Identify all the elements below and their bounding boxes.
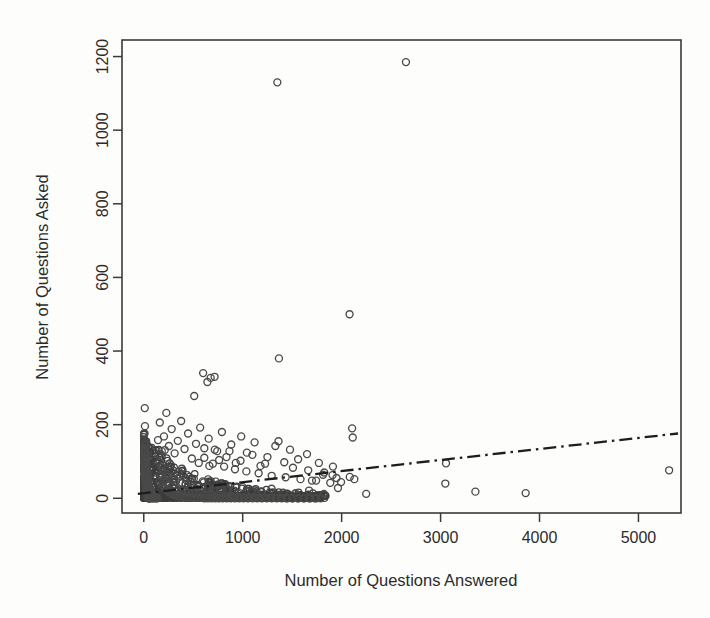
data-point <box>289 464 296 471</box>
data-point <box>205 435 212 442</box>
data-point <box>171 450 178 457</box>
x-tick-label-5000: 5000 <box>621 529 657 546</box>
data-point <box>168 426 175 433</box>
data-point <box>218 429 225 436</box>
data-point <box>349 434 356 441</box>
data-point <box>402 59 409 66</box>
x-tick-label-1000: 1000 <box>225 529 261 546</box>
data-point <box>188 455 195 462</box>
y-axis-title: Number of Questions Asked <box>33 174 51 379</box>
data-point <box>201 454 208 461</box>
data-point <box>251 439 258 446</box>
x-tick-label-2000: 2000 <box>324 529 360 546</box>
x-tick-label-4000: 4000 <box>522 529 558 546</box>
data-point <box>281 459 288 466</box>
data-point <box>223 454 230 461</box>
data-point <box>315 459 322 466</box>
data-point <box>156 419 163 426</box>
data-point <box>243 468 250 475</box>
data-point <box>274 79 281 86</box>
data-point <box>141 423 148 430</box>
data-point <box>155 437 162 444</box>
y-axis-tick-labels: 020040060080010001200 <box>94 39 111 503</box>
plot-canvas: 020040060080010001200 010002000300040005… <box>0 0 710 618</box>
y-tick-label-1000: 1000 <box>94 112 111 148</box>
data-point <box>185 430 192 437</box>
data-point <box>275 355 282 362</box>
data-point <box>191 392 198 399</box>
data-point <box>666 467 673 474</box>
data-point <box>238 433 245 440</box>
y-tick-label-600: 600 <box>94 264 111 291</box>
data-point <box>363 490 370 497</box>
data-point <box>442 480 449 487</box>
data-point <box>228 441 235 448</box>
data-point <box>295 456 302 463</box>
y-axis-ticks <box>113 57 122 499</box>
data-point-group <box>141 59 673 502</box>
y-tick-label-400: 400 <box>94 338 111 365</box>
data-point <box>201 445 208 452</box>
data-point <box>200 370 207 377</box>
data-point <box>197 424 204 431</box>
data-point <box>346 311 353 318</box>
x-axis-title: Number of Questions Answered <box>285 571 518 589</box>
data-point <box>178 417 185 424</box>
y-tick-label-800: 800 <box>94 190 111 217</box>
data-point <box>305 467 312 474</box>
data-point <box>443 460 450 467</box>
data-point <box>349 425 356 432</box>
data-point <box>174 437 181 444</box>
scatter-plot-figure: 020040060080010001200 010002000300040005… <box>0 0 710 618</box>
data-point <box>141 405 148 412</box>
y-tick-label-1200: 1200 <box>94 39 111 75</box>
data-point <box>165 443 172 450</box>
x-tick-label-0: 0 <box>139 529 148 546</box>
data-point <box>287 446 294 453</box>
x-tick-label-3000: 3000 <box>423 529 459 546</box>
data-point <box>193 440 200 447</box>
data-point <box>264 454 271 461</box>
data-point <box>181 445 188 452</box>
y-tick-label-0: 0 <box>94 494 111 503</box>
data-point <box>214 448 221 455</box>
data-point <box>334 484 341 491</box>
data-point <box>304 451 311 458</box>
x-axis-ticks <box>144 513 639 522</box>
data-point <box>472 488 479 495</box>
data-point <box>221 463 228 470</box>
data-point <box>522 490 529 497</box>
y-tick-label-200: 200 <box>94 411 111 438</box>
data-point <box>327 479 334 486</box>
data-point <box>329 463 336 470</box>
x-axis-tick-labels: 010002000300040005000 <box>139 529 656 546</box>
data-point <box>163 409 170 416</box>
data-point <box>255 470 262 477</box>
